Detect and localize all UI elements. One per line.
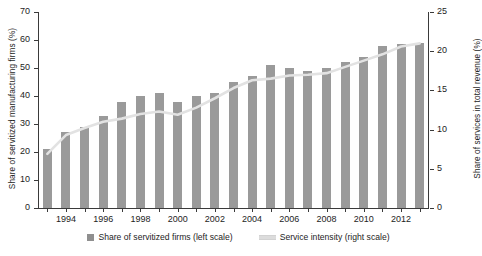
y-axis-left-tick-label: 70 bbox=[2, 6, 30, 16]
x-axis-tick-label: 2006 bbox=[269, 214, 309, 224]
y-axis-left-tick-label: 50 bbox=[2, 62, 30, 72]
x-axis-tick bbox=[234, 209, 235, 212]
bar bbox=[415, 43, 424, 208]
x-axis-tick-label: 2010 bbox=[344, 214, 384, 224]
legend-item-bars: Share of servitized firms (left scale) bbox=[87, 232, 232, 242]
y-axis-right-tick-label: 10 bbox=[437, 124, 461, 134]
x-axis-tick bbox=[159, 209, 160, 212]
bar bbox=[61, 132, 70, 208]
x-axis-tick-label: 1994 bbox=[46, 214, 86, 224]
y-axis-right-tick bbox=[430, 208, 434, 209]
y-axis-left-tick-label: 0 bbox=[2, 202, 30, 212]
y-axis-right-tick bbox=[430, 130, 434, 131]
bar bbox=[99, 116, 108, 208]
x-axis-tick bbox=[196, 209, 197, 212]
bar bbox=[210, 93, 219, 208]
x-axis-tick bbox=[103, 209, 104, 212]
legend-label-line: Service intensity (right scale) bbox=[280, 232, 390, 242]
x-axis-tick bbox=[85, 209, 86, 212]
x-axis-tick-label: 2000 bbox=[158, 214, 198, 224]
bar bbox=[378, 46, 387, 208]
bar bbox=[155, 93, 164, 208]
y-axis-left-tick-label: 60 bbox=[2, 34, 30, 44]
legend-label-bars: Share of servitized firms (left scale) bbox=[98, 232, 232, 242]
y-axis-left-tick bbox=[34, 208, 38, 209]
x-axis-tick bbox=[122, 209, 123, 212]
y-axis-left-tick-label: 10 bbox=[2, 174, 30, 184]
x-axis-tick bbox=[308, 209, 309, 212]
x-axis-tick-label: 2002 bbox=[195, 214, 235, 224]
y-axis-right-tick bbox=[430, 90, 434, 91]
bar bbox=[397, 44, 406, 208]
x-axis-tick bbox=[364, 209, 365, 212]
x-axis-tick-label: 1996 bbox=[83, 214, 123, 224]
legend-item-line: Service intensity (right scale) bbox=[259, 232, 390, 242]
bar bbox=[117, 102, 126, 208]
y-axis-left-tick-label: 40 bbox=[2, 90, 30, 100]
bar bbox=[248, 76, 257, 208]
x-axis-tick-label: 2008 bbox=[307, 214, 347, 224]
bar bbox=[303, 71, 312, 208]
y-axis-right-tick bbox=[430, 51, 434, 52]
x-axis-tick bbox=[47, 209, 48, 212]
y-axis-right-title: Share of services in total revenue (%) bbox=[473, 9, 482, 209]
x-axis-tick bbox=[178, 209, 179, 212]
y-axis-right-tick bbox=[430, 169, 434, 170]
y-axis-right-tick-label: 25 bbox=[437, 6, 461, 16]
x-axis-tick bbox=[345, 209, 346, 212]
bar bbox=[229, 82, 238, 208]
bar bbox=[359, 57, 368, 208]
x-axis-tick bbox=[382, 209, 383, 212]
bar bbox=[43, 149, 52, 208]
x-axis-tick bbox=[271, 209, 272, 212]
x-axis-tick bbox=[66, 209, 67, 212]
bar bbox=[192, 96, 201, 208]
bar bbox=[136, 96, 145, 208]
bar bbox=[266, 65, 275, 208]
bar bbox=[322, 68, 331, 208]
x-axis-tick bbox=[420, 209, 421, 212]
plot-area bbox=[38, 12, 429, 208]
x-axis-tick bbox=[140, 209, 141, 212]
x-axis-tick bbox=[215, 209, 216, 212]
bar bbox=[80, 127, 89, 208]
bar bbox=[173, 102, 182, 208]
y-axis-left-tick-label: 20 bbox=[2, 146, 30, 156]
y-axis-right-tick-label: 15 bbox=[437, 84, 461, 94]
x-axis-tick-label: 2004 bbox=[232, 214, 272, 224]
y-axis-right-tick bbox=[430, 12, 434, 13]
x-axis-tick-label: 2012 bbox=[381, 214, 421, 224]
chart-legend: Share of servitized firms (left scale) S… bbox=[0, 232, 477, 242]
bar bbox=[285, 68, 294, 208]
y-axis-right-tick-label: 0 bbox=[437, 202, 461, 212]
y-axis-left-tick-label: 30 bbox=[2, 118, 30, 128]
x-axis-tick bbox=[289, 209, 290, 212]
x-axis-tick bbox=[252, 209, 253, 212]
bar bbox=[341, 62, 350, 208]
y-axis-right-tick-label: 20 bbox=[437, 45, 461, 55]
x-axis-tick bbox=[327, 209, 328, 212]
legend-line-icon bbox=[259, 235, 276, 240]
x-axis-tick-label: 1998 bbox=[120, 214, 160, 224]
y-axis-right-tick-label: 5 bbox=[437, 163, 461, 173]
legend-square-icon bbox=[87, 234, 94, 241]
x-axis-tick bbox=[401, 209, 402, 212]
